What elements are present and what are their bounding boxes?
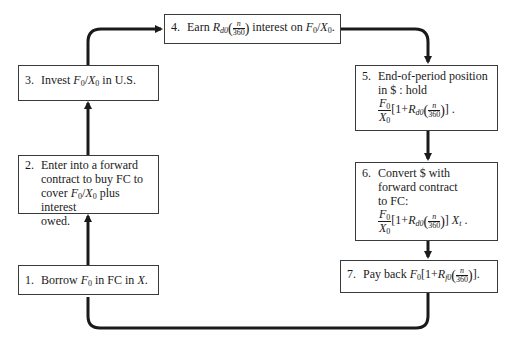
step-7-box: 7.Pay back F0[1+Rf0(n360)].: [340, 260, 498, 293]
step-1-box: 1.Borrow F0 in FC in X.: [18, 265, 159, 295]
arrow-7-to-1: [88, 292, 428, 328]
step-6-box: 6.Convert $ with forward contract to FC:…: [355, 162, 498, 241]
step-2-box: 2.Enter into a forward contract to buy F…: [18, 155, 159, 214]
formula-convert: F0X0[1+Rd0(n360)] Xt .: [362, 208, 491, 235]
step-3-box: 3.Invest F0/X0 in U.S.: [18, 65, 159, 101]
step-number: 1.: [25, 273, 41, 287]
arrow-3-to-4: [88, 29, 161, 65]
arrow-4-to-5: [340, 29, 428, 62]
step-5-box: 5.End-of-period position in $ : hold F0X…: [355, 65, 498, 131]
step-4-box: 4.Earn Rd0(n360) interest on F0/X0.: [164, 14, 341, 44]
formula-hold: F0X0[1+Rd0(n360)] .: [362, 97, 491, 124]
